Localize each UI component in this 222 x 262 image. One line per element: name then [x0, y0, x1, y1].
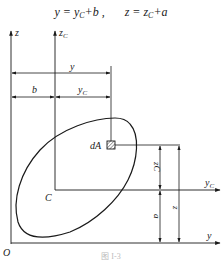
yc-axis: yC — [55, 177, 220, 190]
zc-dimension-label: zC — [152, 161, 162, 173]
z-axis: z — [11, 27, 19, 244]
zc-dimension: zC — [152, 146, 162, 189]
y-axis-label: y — [206, 230, 212, 241]
parallel-axis-diagram: z zC y O yC dA C y b yC zC — [0, 0, 222, 262]
z-axis-label: z — [14, 27, 19, 38]
da-element: dA — [90, 140, 115, 151]
y-dimension-label: y — [69, 61, 75, 72]
z-dimension: z — [171, 146, 181, 242]
b-dimension-label: b — [32, 84, 37, 95]
yc-dimension: yC — [56, 84, 110, 97]
yc-dimension-label: yC — [77, 84, 87, 97]
zc-axis-label: zC — [58, 27, 68, 40]
centroid-label: C — [45, 192, 52, 203]
a-dimension-label: a — [152, 214, 162, 219]
y-dimension: y — [12, 61, 110, 73]
z-dimension-label: z — [171, 205, 181, 210]
da-label: dA — [90, 140, 102, 151]
a-dimension: a — [152, 191, 162, 242]
yc-axis-label: yC — [204, 177, 214, 190]
cross-section-outline — [16, 118, 137, 237]
b-dimension: b — [12, 84, 54, 97]
zc-axis: zC — [55, 27, 68, 190]
figure-caption: 图 I-3 — [0, 250, 222, 261]
